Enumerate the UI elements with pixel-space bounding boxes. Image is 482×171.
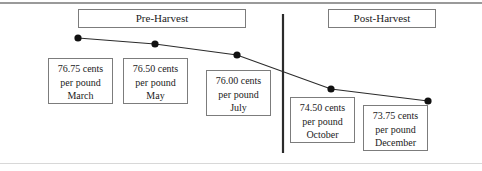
pre-harvest-label-text: Pre-Harvest xyxy=(136,12,189,24)
data-point-may xyxy=(151,40,158,47)
callout-may-price: 76.50 cents xyxy=(124,62,187,76)
callout-july-month: July xyxy=(207,101,270,115)
callout-march-price: 76.75 cents xyxy=(49,62,112,76)
callout-march-month: March xyxy=(49,89,112,103)
bottom-divider-rule xyxy=(0,163,482,164)
figure-canvas: Pre-Harvest Post-Harvest 76.75 cents per… xyxy=(0,0,482,171)
callout-july: 76.00 cents per pound July xyxy=(206,70,271,116)
callout-december-month: December xyxy=(364,136,427,150)
callout-march-unit: per pound xyxy=(49,76,112,90)
callout-may: 76.50 cents per pound May xyxy=(123,58,188,104)
callout-october-price: 74.50 cents xyxy=(291,101,354,115)
data-point-march xyxy=(74,34,81,41)
data-point-october xyxy=(327,85,334,92)
data-point-july xyxy=(233,51,240,58)
callout-march: 76.75 cents per pound March xyxy=(48,58,113,104)
callout-december-unit: per pound xyxy=(364,123,427,137)
callout-july-unit: per pound xyxy=(207,88,270,102)
callout-october: 74.50 cents per pound October xyxy=(290,97,355,143)
callout-december: 73.75 cents per pound December xyxy=(363,105,428,151)
callout-may-month: May xyxy=(124,89,187,103)
post-harvest-label-text: Post-Harvest xyxy=(354,12,411,24)
callout-july-price: 76.00 cents xyxy=(207,74,270,88)
data-point-december xyxy=(424,97,431,104)
callout-october-unit: per pound xyxy=(291,115,354,129)
callout-may-unit: per pound xyxy=(124,76,187,90)
callout-december-price: 73.75 cents xyxy=(364,109,427,123)
pre-harvest-label-box: Pre-Harvest xyxy=(78,9,246,28)
callout-october-month: October xyxy=(291,128,354,142)
post-harvest-label-box: Post-Harvest xyxy=(328,9,436,28)
